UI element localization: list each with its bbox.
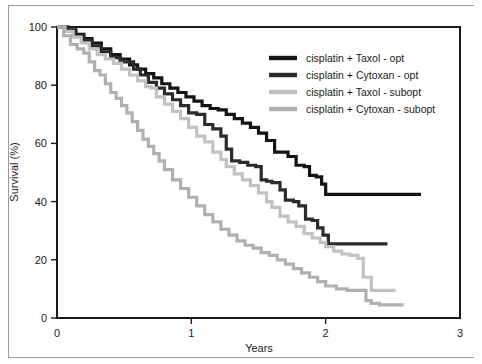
legend-swatch-2 [269, 90, 297, 94]
x-axis-label: Years [245, 342, 273, 354]
legend-swatch-0 [269, 56, 297, 60]
y-tick-label: 40 [35, 196, 47, 208]
y-tick-label: 20 [35, 254, 47, 266]
x-tick-label: 2 [323, 327, 329, 339]
survival-chart: 020406080100 0123 Years Survival (%) cis… [0, 0, 482, 364]
legend-swatch-3 [269, 107, 297, 111]
y-axis-tick-labels: 020406080100 [29, 21, 47, 324]
legend-label-0: cisplatin + Taxol - opt [306, 52, 404, 64]
figure-container: 020406080100 0123 Years Survival (%) cis… [0, 0, 482, 364]
legend-label-2: cisplatin + Taxol - subopt [306, 86, 421, 98]
y-axis-label: Survival (%) [8, 142, 20, 201]
y-tick-label: 100 [29, 21, 47, 33]
x-tick-label: 3 [457, 327, 463, 339]
series-line-2 [57, 27, 396, 290]
chart-legend: cisplatin + Taxol - optcisplatin + Cytox… [269, 52, 435, 115]
x-axis-tick-labels: 0123 [54, 327, 463, 339]
x-tick-label: 1 [188, 327, 194, 339]
legend-label-3: cisplatin + Cytoxan - subopt [306, 103, 435, 115]
y-tick-label: 0 [41, 312, 47, 324]
legend-swatch-1 [269, 73, 297, 77]
y-tick-label: 60 [35, 137, 47, 149]
x-tick-label: 0 [54, 327, 60, 339]
y-tick-label: 80 [35, 79, 47, 91]
legend-label-1: cisplatin + Cytoxan - opt [306, 69, 418, 81]
